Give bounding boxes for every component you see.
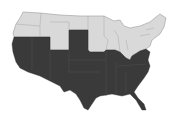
us-map (0, 0, 177, 117)
